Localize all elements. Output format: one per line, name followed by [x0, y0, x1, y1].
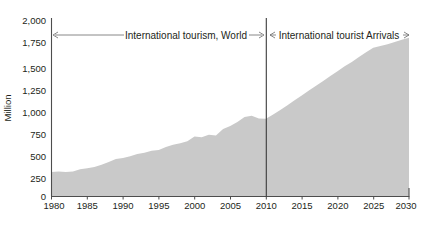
annotation-right-span: International tourist Arrivals	[270, 30, 409, 41]
annotation-left-span: International tourism, World	[53, 30, 264, 41]
x-tick-label: 2005	[220, 200, 241, 211]
tourism-area-chart: Million 0 250 500 750 1,000 1,250 1,500 …	[0, 0, 428, 227]
y-tick-label: 750	[30, 129, 46, 140]
x-tick-label: 2010	[256, 200, 277, 211]
y-tick-label: 1,750	[22, 37, 46, 48]
area-series-international-tourism	[52, 38, 410, 197]
annotation-left-label: International tourism, World	[125, 30, 247, 41]
x-tick-label: 1990	[113, 200, 134, 211]
x-tick-label: 1995	[148, 200, 169, 211]
x-tick-label: 2000	[184, 200, 205, 211]
annotation-right-label: International tourist Arrivals	[279, 30, 400, 41]
y-tick-labels: 0 250 500 750 1,000 1,250 1,500 1,750 2,…	[22, 15, 46, 202]
x-tick-label: 2030	[395, 200, 416, 211]
y-tick-label: 250	[30, 173, 46, 184]
x-tick-label: 1985	[77, 200, 98, 211]
y-tick-label: 1,000	[22, 107, 46, 118]
x-tick-label: 2015	[292, 200, 313, 211]
y-tick-label: 1,250	[22, 85, 46, 96]
x-tick-label: 2025	[363, 200, 384, 211]
x-tick-labels: 1980 1985 1990 1995 2000 2005 2010 2015 …	[43, 200, 416, 211]
x-tick-label: 2020	[327, 200, 348, 211]
y-tick-label: 500	[30, 151, 46, 162]
y-tick-label: 2,000	[22, 15, 46, 26]
y-axis-title: Million	[2, 95, 13, 122]
x-tick-label: 1980	[43, 200, 64, 211]
y-tick-label: 1,500	[22, 63, 46, 74]
chart-page: Million 0 250 500 750 1,000 1,250 1,500 …	[0, 0, 428, 227]
